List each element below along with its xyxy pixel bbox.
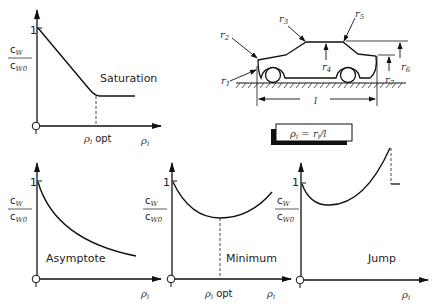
r2-label: r2 [220,29,230,42]
length-label: l [314,95,317,106]
car-panel: r1 r2 r3 r4 r5 r6 r7 l ρi = ri/l [220,8,411,145]
svg-text:cW0: cW0 [10,211,28,224]
r6-label: r6 [401,61,411,74]
y-tick-1: 1 [30,24,37,37]
x-axis-label: ρi [401,289,410,302]
svg-text:cW0: cW0 [145,211,163,224]
rear-wheel [341,68,356,83]
svg-text:cW0: cW0 [10,60,28,73]
r3-label: r3 [279,13,289,26]
r3-arrow [288,26,305,41]
svg-text:1: 1 [30,176,37,189]
r1-label: r1 [221,75,230,88]
x-axis-label: ρi [266,288,275,301]
svg-text:1: 1 [292,176,299,189]
svg-text:cW: cW [10,195,24,208]
svg-text:cW: cW [145,195,159,208]
y-axis-label: cW cW0 [8,195,32,224]
r5-arrow [344,18,355,41]
y-axis-label: cW cW0 [143,195,167,224]
plot-minimum: 1 cW cW0 Minimum ρiopt ρi cW cW0 [143,163,299,301]
jump-curve [302,148,390,205]
drag-coefficient-diagram: 1 cW cW0 Saturation ρiopt ρi [0,0,433,307]
svg-text:cW0: cW0 [277,211,295,224]
plot-asymptote: 1 cW cW0 Asymptote ρi [8,163,161,301]
saturation-label: Saturation [100,72,157,85]
r5-label: r5 [355,8,365,21]
plot-saturation: 1 cW cW0 Saturation ρiopt ρi [8,10,161,148]
asymptote-curve [38,182,136,256]
saturation-curve [38,28,135,96]
jump-label: Jump [367,252,396,265]
svg-text:cW: cW [10,44,24,57]
minimum-label: Minimum [226,252,277,265]
asymptote-label: Asymptote [46,252,106,265]
x-axis-label: ρi [140,135,149,148]
y-axis-label: cW cW0 [8,44,32,73]
r7-label: r7 [385,74,395,87]
rho-opt-label: ρiopt [83,133,112,146]
jump-y-axis-label: cW cW0 [275,195,299,224]
rho-opt-label: ρiopt [204,288,233,301]
plot-jump: 1 Jump ρi [292,148,428,302]
svg-text:1: 1 [163,176,170,189]
origin-marker [32,122,40,130]
svg-text:cW: cW [277,195,291,208]
x-axis-label: ρi [140,288,149,301]
minimum-curve [173,182,272,218]
r2-arrow [232,38,257,58]
front-wheel [266,68,281,83]
r1-arrow [230,70,256,81]
